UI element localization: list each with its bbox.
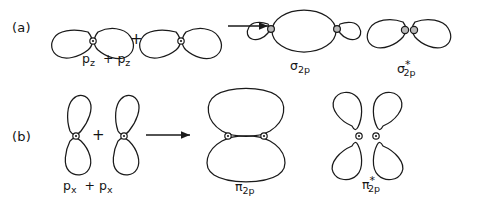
nucleus-dot: [123, 135, 125, 137]
pz-sum-label: pz +pz: [82, 51, 130, 68]
sigma-star-subscript: 2p: [403, 67, 415, 78]
pz-sum-operator: +: [103, 51, 113, 66]
nucleus-dot: [92, 40, 94, 42]
px-sum-operator: +: [85, 178, 95, 193]
px-sum-p1: p: [63, 178, 71, 193]
nucleus-dot: [263, 135, 265, 137]
sigma-subscript: 2p: [298, 64, 310, 75]
pi-star-subscript: 2p: [368, 183, 380, 194]
nucleus-marker: [268, 26, 275, 33]
reaction-arrow-b: [146, 131, 190, 139]
molecular-orbital-diagram: (a): [0, 0, 479, 201]
pi-bonding-orbital: [207, 88, 285, 182]
px-orbital-2: [113, 95, 139, 174]
px-sum-sub2: x: [107, 184, 113, 195]
panel-a-graphics: [0, 0, 479, 100]
nucleus-dot: [358, 135, 360, 137]
px-sum-label: px +px: [63, 178, 113, 195]
nucleus-dot: [227, 135, 229, 137]
sigma-bonding-orbital: [247, 10, 360, 52]
pi-subscript: 2p: [243, 185, 255, 196]
pz-sum-sub2: z: [125, 57, 130, 68]
sigma-bonding-label: σ2p: [290, 58, 310, 75]
plus-sign-b: +: [92, 126, 105, 144]
px-sum-p2: p: [99, 178, 107, 193]
sigma-symbol: σ: [290, 58, 298, 73]
nucleus-dot: [375, 135, 377, 137]
px-orbital-1: [65, 95, 91, 174]
nucleus-dot: [180, 40, 182, 42]
pi-bonding-label: π2p: [235, 179, 255, 196]
plus-sign-a: +: [130, 30, 143, 48]
pz-sum-sub1: z: [90, 57, 95, 68]
nucleus-dot: [75, 135, 77, 137]
pz-sum-p1: p: [82, 51, 90, 66]
nucleus-marker: [410, 26, 417, 33]
px-sum-sub1: x: [71, 184, 77, 195]
pz-orbital-2: [140, 29, 222, 59]
pi-antibonding-orbital: [332, 92, 403, 179]
pi-antibonding-label: π*2p: [362, 174, 380, 194]
sigma-antibonding-orbital: [367, 20, 450, 48]
nucleus-marker: [401, 26, 408, 33]
sigma-antibonding-label: σ*2p: [397, 58, 416, 78]
pi-symbol: π: [235, 179, 243, 194]
nucleus-marker: [334, 26, 341, 33]
